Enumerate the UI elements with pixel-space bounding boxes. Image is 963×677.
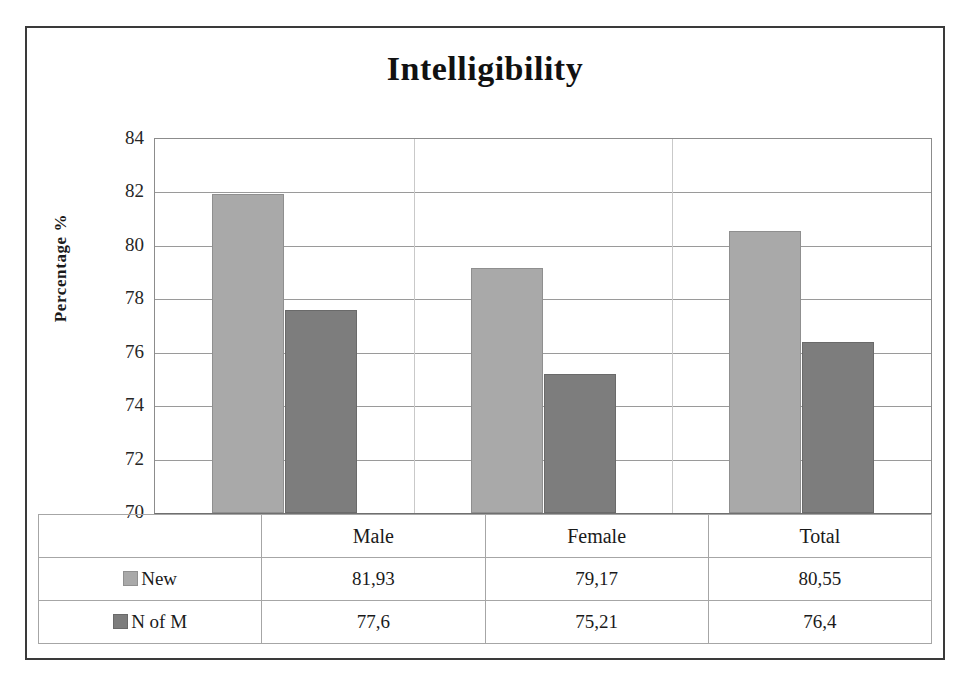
legend-label: N of M	[131, 611, 187, 632]
bar-male-new	[212, 194, 284, 513]
legend-swatch-icon	[123, 571, 138, 586]
y-axis-tick-label: 72	[88, 448, 144, 470]
bar-female-new	[471, 268, 543, 513]
table-column-header-female: Female	[485, 515, 708, 558]
table-row: N of M77,675,2176,4	[39, 601, 932, 644]
y-axis-tick-label: 80	[88, 234, 144, 256]
table-cell-total-n-of-m: 76,4	[708, 601, 931, 644]
table-column-header-male: Male	[262, 515, 485, 558]
table-row: New81,9379,1780,55	[39, 558, 932, 601]
chart-data-table: MaleFemaleTotalNew81,9379,1780,55N of M7…	[38, 514, 932, 644]
y-axis-tick-label: 82	[88, 180, 144, 202]
chart-title: Intelligibility	[27, 50, 943, 88]
legend-entry-new: New	[39, 558, 262, 601]
table-cell-total-new: 80,55	[708, 558, 931, 601]
y-axis-title: Percentage %	[51, 188, 71, 348]
y-axis-tick-label: 78	[88, 287, 144, 309]
table-cell-female-n-of-m: 75,21	[485, 601, 708, 644]
table-corner-cell	[39, 515, 262, 558]
y-axis-tick-labels: 8482807876747270	[82, 138, 144, 514]
chart-frame: Intelligibility Percentage % 84828078767…	[25, 26, 945, 660]
y-axis-tick-label: 84	[88, 127, 144, 149]
table-column-header-total: Total	[708, 515, 931, 558]
y-axis-tick-label: 76	[88, 341, 144, 363]
legend-swatch-icon	[113, 614, 128, 629]
legend-entry-n-of-m: N of M	[39, 601, 262, 644]
y-axis-tick-label: 74	[88, 394, 144, 416]
bar-female-n-of-m	[544, 374, 616, 513]
table-header-row: MaleFemaleTotal	[39, 515, 932, 558]
bar-total-new	[729, 231, 801, 513]
legend-label: New	[141, 568, 177, 589]
category-separator	[414, 139, 415, 513]
gridline	[155, 192, 931, 193]
category-separator	[672, 139, 673, 513]
table-cell-male-n-of-m: 77,6	[262, 601, 485, 644]
bar-male-n-of-m	[285, 310, 357, 513]
table-cell-female-new: 79,17	[485, 558, 708, 601]
table-cell-male-new: 81,93	[262, 558, 485, 601]
plot-area	[154, 138, 932, 514]
bar-total-n-of-m	[802, 342, 874, 513]
